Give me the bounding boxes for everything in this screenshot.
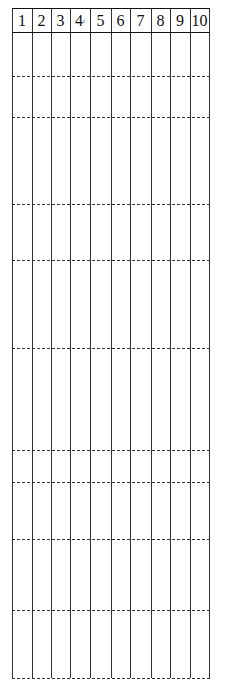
dashed-row-divider xyxy=(12,260,210,261)
column-header-label: 4 xyxy=(75,12,83,30)
column-divider xyxy=(51,8,52,678)
column-header-label: 7 xyxy=(137,12,145,30)
dashed-row-divider xyxy=(12,678,210,679)
column-header-label: 2 xyxy=(38,12,46,30)
header-rule xyxy=(12,32,210,33)
column-divider xyxy=(130,8,131,678)
column-divider xyxy=(12,8,13,678)
column-divider xyxy=(90,8,91,678)
header-rule xyxy=(12,8,210,9)
column-header-4: 4i xyxy=(70,8,90,32)
column-header-2: 2 xyxy=(32,8,51,32)
column-header-8: 8 xyxy=(151,8,170,32)
column-divider xyxy=(209,8,210,678)
footnote-mark: i xyxy=(83,17,85,25)
dashed-row-divider xyxy=(12,450,210,451)
column-header-label: 8 xyxy=(157,12,165,30)
column-header-label: 3 xyxy=(57,12,65,30)
column-header-1: 1 xyxy=(12,8,32,32)
column-header-label: 10 xyxy=(192,12,208,30)
column-header-6: 6 xyxy=(111,8,130,32)
dashed-row-divider xyxy=(12,117,210,118)
column-divider xyxy=(70,8,71,678)
column-header-label: 5 xyxy=(97,12,105,30)
column-header-9: 9 xyxy=(170,8,190,32)
dashed-row-divider xyxy=(12,610,210,611)
column-grid-diagram: 1234i5678910 xyxy=(0,0,227,698)
column-header-5: 5 xyxy=(90,8,111,32)
dashed-row-divider xyxy=(12,204,210,205)
column-divider xyxy=(32,8,33,678)
dashed-row-divider xyxy=(12,76,210,77)
column-header-label: 1 xyxy=(18,12,26,30)
column-divider xyxy=(111,8,112,678)
column-header-label: 9 xyxy=(176,12,184,30)
dashed-row-divider xyxy=(12,539,210,540)
column-header-3: 3 xyxy=(51,8,70,32)
column-divider xyxy=(190,8,191,678)
dashed-row-divider xyxy=(12,348,210,349)
column-divider xyxy=(170,8,171,678)
column-header-10: 10 xyxy=(190,8,209,32)
column-header-label: 6 xyxy=(117,12,125,30)
column-header-7: 7 xyxy=(130,8,151,32)
dashed-row-divider xyxy=(12,482,210,483)
column-divider xyxy=(151,8,152,678)
